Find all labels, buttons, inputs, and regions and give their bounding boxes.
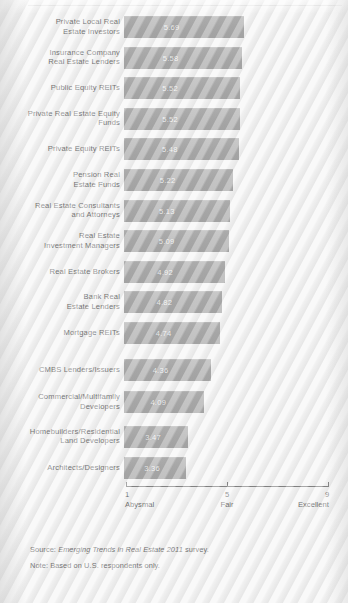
bar-row: Insurance Company Real Estate Lenders5.5… bbox=[0, 47, 348, 69]
bar bbox=[124, 138, 239, 160]
bar-value-label: 4.09 bbox=[150, 398, 166, 407]
category-label: Architects/Designers bbox=[12, 464, 120, 474]
bar-value-label: 5.52 bbox=[162, 114, 178, 123]
bar-row: Homebuilders/Residential Land Developers… bbox=[0, 426, 348, 448]
bar bbox=[124, 108, 240, 130]
bar-value-label: 5.22 bbox=[160, 176, 176, 185]
bar-row: Real Estate Brokers4.92 bbox=[0, 261, 348, 283]
bar-value-label: 5.09 bbox=[159, 237, 175, 246]
bar-row: Bank Real Estate Lenders4.82 bbox=[0, 291, 348, 313]
bar-value-label: 5.52 bbox=[162, 84, 178, 93]
bar-row: Real Estate Consultants and Attorneys5.1… bbox=[0, 200, 348, 222]
bar-value-label: 4.92 bbox=[157, 267, 173, 276]
chart-figure: Private Local Real Estate Investors5.69I… bbox=[0, 0, 348, 603]
bar-value-label: 3.36 bbox=[144, 464, 160, 473]
category-label: Mortgage REITs bbox=[12, 328, 120, 338]
category-label: Real Estate Investment Managers bbox=[12, 232, 120, 251]
bar-value-label: 4.82 bbox=[156, 298, 172, 307]
category-label: Insurance Company Real Estate Lenders bbox=[12, 48, 120, 67]
bar-value-label: 3.47 bbox=[145, 432, 161, 441]
bar-value-label: 4.74 bbox=[156, 329, 172, 338]
bar-row: Pension Real Estate Funds5.22 bbox=[0, 169, 348, 191]
bar bbox=[124, 230, 229, 252]
bar-row: CMBS Lenders/Issuers4.36 bbox=[0, 359, 348, 381]
bar bbox=[124, 47, 242, 69]
bar-row: Mortgage REITs4.74 bbox=[0, 322, 348, 344]
bar-row: Private Local Real Estate Investors5.69 bbox=[0, 16, 348, 38]
category-label: Private Real Estate Equity Funds bbox=[12, 109, 120, 128]
bar bbox=[124, 169, 233, 191]
category-label: Real Estate Consultants and Attorneys bbox=[12, 201, 120, 220]
bar bbox=[124, 322, 220, 344]
bar-row: Commercial/Multifamily Developers4.09 bbox=[0, 391, 348, 413]
category-label: Real Estate Brokers bbox=[12, 267, 120, 277]
bar-value-label: 5.58 bbox=[163, 53, 179, 62]
bar bbox=[124, 77, 240, 99]
bar bbox=[124, 200, 230, 222]
bar-row: Private Equity REITs5.48 bbox=[0, 138, 348, 160]
bar-row: Real Estate Investment Managers5.09 bbox=[0, 230, 348, 252]
bar bbox=[124, 16, 244, 38]
category-label: Pension Real Estate Funds bbox=[12, 170, 120, 189]
category-label: Bank Real Estate Lenders bbox=[12, 293, 120, 312]
category-label: CMBS Lenders/Issuers bbox=[12, 365, 120, 375]
bar-row: Public Equity REITs5.52 bbox=[0, 77, 348, 99]
category-label: Private Local Real Estate Investors bbox=[12, 17, 120, 36]
bar-value-label: 4.36 bbox=[153, 365, 169, 374]
bar-chart-plot-area: Private Local Real Estate Investors5.69I… bbox=[0, 0, 348, 603]
bar-row: Architects/Designers3.36 bbox=[0, 457, 348, 479]
bar bbox=[124, 291, 222, 313]
category-label: Commercial/Multifamily Developers bbox=[12, 393, 120, 412]
bar-value-label: 5.48 bbox=[162, 145, 178, 154]
category-label: Homebuilders/Residential Land Developers bbox=[12, 427, 120, 446]
category-label: Private Equity REITs bbox=[12, 145, 120, 155]
bar bbox=[124, 261, 225, 283]
bar-value-label: 5.13 bbox=[159, 206, 175, 215]
bar-row: Private Real Estate Equity Funds5.52 bbox=[0, 108, 348, 130]
category-label: Public Equity REITs bbox=[12, 83, 120, 93]
bar-value-label: 5.69 bbox=[164, 23, 180, 32]
